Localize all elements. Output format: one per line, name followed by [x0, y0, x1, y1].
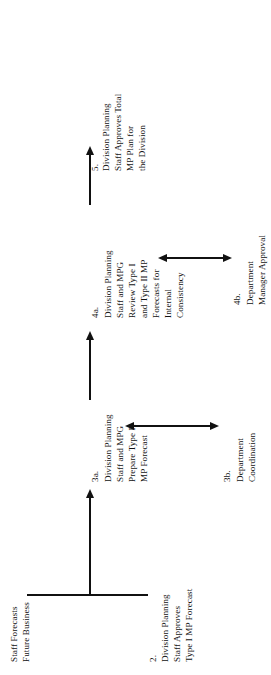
node-3a-line-2: Staff and MPG	[115, 426, 126, 482]
connector-4a-4b-arrowhead-right	[223, 254, 232, 262]
diagram-canvas: 5. Division Planning Staff Approves Tota…	[0, 0, 271, 675]
connector-4a-to-5-arrowhead	[86, 146, 94, 155]
connector-source-tee-bar	[27, 594, 148, 596]
connector-4a-4b-arrowhead-left	[158, 254, 167, 262]
connector-2-to-3a-arrowhead	[86, 489, 94, 498]
connector-4a-4b-shaft	[166, 257, 224, 259]
node-3b-number: 3b.	[222, 470, 233, 482]
connector-4a-to-5-shaft	[89, 153, 91, 205]
connector-3a-to-4a-shaft	[89, 338, 91, 400]
node-4b-line-1: Department	[245, 261, 256, 305]
node-4b-number: 4b.	[232, 293, 243, 305]
connector-3a-3b-shaft	[133, 425, 211, 427]
node-4a-line-7: Consistency	[175, 272, 186, 318]
connector-3a-to-4a-arrowhead	[86, 331, 94, 340]
node-4a-number: 4a.	[90, 307, 101, 318]
node-4a-line-4: and Type II MP	[139, 260, 150, 318]
node-3a-line-4: MP Forecast	[139, 435, 150, 482]
source-label-line-2: Future Business	[21, 602, 32, 662]
connector-3a-3b-arrowhead-left	[125, 422, 134, 430]
node-4b-line-2: Manager Approval	[257, 235, 268, 305]
node-4a-line-3: Review Type I	[127, 263, 138, 318]
node-2-line-2: Staff Approves	[172, 606, 183, 662]
node-4a-line-2: Staff and MPG	[115, 262, 126, 318]
node-5-line-2: Staff Approves Total	[113, 94, 124, 171]
node-5-line-3: MP Plan for	[125, 126, 136, 171]
node-5-number: 5.	[90, 164, 101, 171]
node-2-number: 2.	[148, 655, 159, 662]
node-2-line-1: Division Planning	[160, 594, 171, 662]
connector-3a-3b-arrowhead-right	[210, 422, 219, 430]
connector-2-to-3a-shaft	[89, 497, 91, 596]
node-3a-line-1: Division Planning	[103, 414, 114, 482]
node-5-line-1: Division Planning	[101, 103, 112, 171]
node-3b-line-2: Coordination	[247, 433, 258, 482]
node-3a-line-3: Prepare Type II	[127, 424, 138, 482]
node-2-line-3: Type I MP Forecast	[184, 589, 195, 662]
node-4a-line-1: Division Planning	[103, 250, 114, 318]
source-label-line-1: Staff Forecasts	[9, 606, 20, 662]
node-5-line-4: the Division	[137, 125, 148, 171]
node-3b-line-1: Department	[235, 438, 246, 482]
node-4a-line-5: Forecasts for	[151, 269, 162, 318]
node-3a-number: 3a.	[90, 471, 101, 482]
node-4a-line-6: Internal	[163, 289, 174, 318]
